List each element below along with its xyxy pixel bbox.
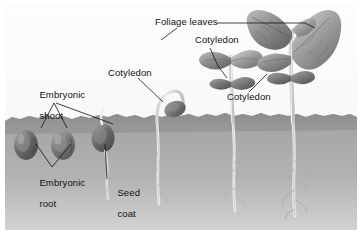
- label-seed-coat-line2: coat: [117, 208, 135, 219]
- label-embryonic-root: Embryonic root: [23, 167, 85, 220]
- label-embryonic-root-line1: Embryonic: [39, 177, 85, 188]
- illustration-panel: Foliage leaves Cotyledon Cotyledon Cotyl…: [5, 4, 357, 230]
- label-cotyledon-upper: Cotyledon: [195, 35, 239, 46]
- label-embryonic-shoot: Embryonic shoot: [23, 79, 85, 132]
- stage-2-dormant-seed-b: [51, 130, 75, 160]
- label-embryonic-root-line2: root: [39, 198, 56, 209]
- label-cotyledon-right: Cotyledon: [227, 92, 271, 103]
- figure-root: Foliage leaves Cotyledon Cotyledon Cotyl…: [0, 0, 362, 244]
- label-foliage-leaves: Foliage leaves: [155, 17, 218, 28]
- stage-1-dormant-seed-a: [14, 130, 38, 160]
- label-embryonic-shoot-line2: shoot: [39, 110, 63, 121]
- label-seed-coat-line1: Seed: [117, 187, 140, 198]
- label-embryonic-shoot-line1: Embryonic: [39, 89, 85, 100]
- label-seed-coat: Seed coat: [101, 177, 140, 230]
- label-cotyledon-mid: Cotyledon: [108, 68, 152, 79]
